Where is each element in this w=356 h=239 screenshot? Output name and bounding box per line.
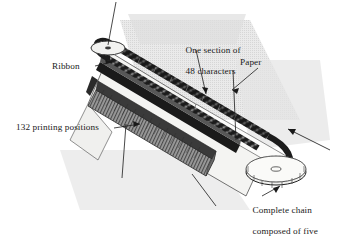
label-ribbon: Ribbon	[52, 61, 80, 72]
label-paper: Paper	[240, 57, 261, 68]
label-complete-chain-line1: Complete chain	[253, 205, 312, 215]
drive-sprocket-lower	[246, 156, 306, 188]
label-132-printing-positions: 132 printing positions	[16, 122, 99, 133]
label-one-section-line1: One section of	[186, 45, 241, 55]
label-complete-chain-line2: composed of five	[253, 226, 318, 236]
label-one-section-line2: 48 characters	[186, 66, 236, 76]
label-complete-chain: Complete chain composed of five 48-chara…	[243, 194, 339, 239]
label-one-section-of-48-characters: One section of 48 characters	[176, 34, 241, 87]
chain-printer-figure: Ribbon One section of 48 characters Pape…	[0, 0, 356, 239]
